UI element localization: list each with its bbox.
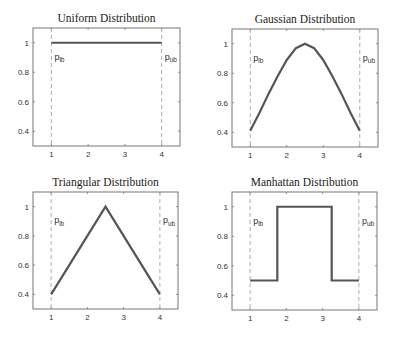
y-tick-label: 0.6 <box>217 262 229 271</box>
y-tick-label: 0.8 <box>217 69 229 78</box>
uniform-distribution-chart: Uniform Distribution12340.40.60.81plbpub <box>18 12 180 159</box>
chart-title: Gaussian Distribution <box>255 13 356 25</box>
x-tick-label: 2 <box>285 151 290 160</box>
x-tick-label: 4 <box>357 314 362 323</box>
x-tick-label: 4 <box>358 151 363 160</box>
manhattan-distribution-chart: Manhattan Distribution12340.40.60.81plbp… <box>217 176 377 323</box>
figure: Uniform Distribution12340.40.60.81plbpub… <box>0 0 395 339</box>
axes-frame <box>33 28 180 146</box>
x-tick-label: 1 <box>248 151 253 160</box>
y-tick-label: 0.4 <box>18 127 30 136</box>
x-tick-label: 1 <box>49 313 54 322</box>
chart-title: Triangular Distribution <box>52 176 159 189</box>
y-tick-label: 0.4 <box>217 128 229 137</box>
x-tick-label: 4 <box>159 150 164 159</box>
x-tick-label: 2 <box>284 314 289 323</box>
y-tick-label: 1 <box>224 40 229 49</box>
axes-frame <box>232 192 377 310</box>
x-tick-label: 1 <box>49 150 54 159</box>
x-tick-label: 2 <box>85 313 90 322</box>
y-tick-label: 1 <box>25 203 30 212</box>
y-tick-label: 0.6 <box>217 99 229 108</box>
x-tick-label: 4 <box>158 313 163 322</box>
y-tick-label: 1 <box>25 39 30 48</box>
x-tick-label: 3 <box>321 151 326 160</box>
y-tick-label: 0.6 <box>18 98 30 107</box>
y-tick-label: 0.8 <box>18 68 30 77</box>
triangular-distribution-chart: Triangular Distribution12340.40.60.81plb… <box>18 176 178 322</box>
chart-title: Uniform Distribution <box>57 12 155 24</box>
chart-title: Manhattan Distribution <box>251 176 359 188</box>
y-tick-label: 0.4 <box>217 291 229 300</box>
x-tick-label: 3 <box>123 150 128 159</box>
x-tick-label: 2 <box>86 150 91 159</box>
axes-frame <box>232 29 378 147</box>
gaussian-distribution-chart: Gaussian Distribution12340.40.60.81plbpu… <box>217 13 378 160</box>
y-tick-label: 1 <box>224 203 229 212</box>
x-tick-label: 3 <box>121 313 126 322</box>
y-tick-label: 0.6 <box>18 261 30 270</box>
y-tick-label: 0.4 <box>18 290 30 299</box>
x-tick-label: 3 <box>320 314 325 323</box>
axes-frame <box>33 192 178 309</box>
y-tick-label: 0.8 <box>217 232 229 241</box>
x-tick-label: 1 <box>248 314 253 323</box>
y-tick-label: 0.8 <box>18 232 30 241</box>
